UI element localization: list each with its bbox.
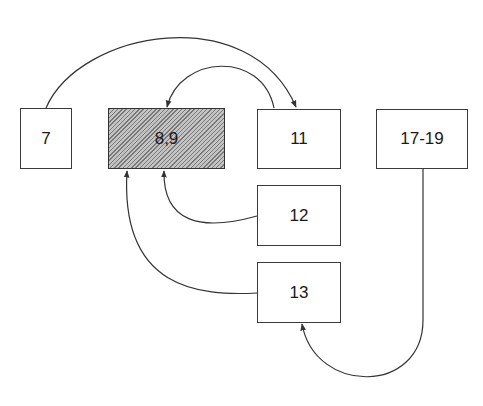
edge-12-to-8-9 [164,171,257,223]
node-12-label: 12 [290,206,309,226]
node-7-label: 7 [41,129,50,149]
node-8-9: 8,9 [108,108,225,169]
node-11: 11 [257,109,341,169]
node-13-label: 13 [290,283,309,303]
node-7: 7 [20,108,72,169]
node-13: 13 [257,262,341,323]
node-12: 12 [257,185,341,246]
edge-7-to-11 [46,38,296,108]
node-11-label: 11 [290,129,308,149]
node-17-19-label: 17-19 [400,129,443,149]
node-8-9-label: 8,9 [155,129,179,149]
edge-13-to-8-9 [127,171,257,294]
edges-layer [0,0,483,406]
node-17-19: 17-19 [376,109,468,169]
edge-11-to-8-9 [167,66,274,108]
